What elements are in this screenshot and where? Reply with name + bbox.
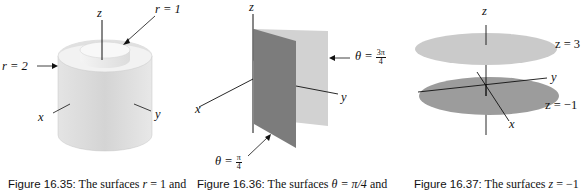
horizontal-planes-illustration (390, 0, 585, 194)
z-axis-label: z (482, 5, 487, 18)
caption-math: θ = π/4 (332, 177, 367, 191)
y-axis-label: y (341, 91, 347, 104)
caption-text: The surfaces (79, 177, 143, 191)
plane-1-label: θ = π4 (215, 154, 242, 171)
figure-16-37: z z = 3 y z = −1 x Figure 16.37: The sur… (390, 0, 585, 194)
figure-caption: Figure 16.35: The surfaces r = 1 and (8, 178, 186, 191)
z-axis-label: z (249, 1, 254, 14)
plane-1-fraction: π4 (236, 154, 242, 171)
caption-text-end: = 1 and (147, 177, 186, 191)
caption-text: The surfaces (485, 177, 549, 191)
upper-plane-label: z = 3 (555, 38, 580, 51)
figure-number: Figure 16.35: (8, 178, 76, 190)
fraction-denominator: 4 (236, 163, 242, 171)
lower-plane-label: z = −1 (545, 99, 577, 112)
caption-text-end: and (367, 177, 387, 191)
caption-text: The surfaces (268, 177, 332, 191)
figure-16-36: z x y θ = 3π4 θ = π4 Figure 16.36: The s… (195, 0, 395, 194)
y-axis-label: y (551, 71, 557, 84)
plane-2-label: θ = 3π4 (355, 49, 386, 66)
plane-1-lhs: θ = (215, 154, 233, 168)
x-axis-label: x (509, 118, 515, 131)
x-axis-label: x (195, 103, 201, 116)
figure-caption: Figure 16.37: The surfaces z = −1 (414, 178, 579, 191)
figure-number: Figure 16.37: (414, 178, 482, 190)
outer-surface-label: r = 2 (2, 60, 28, 73)
inner-surface-label: r = 1 (155, 3, 181, 16)
cylinders-illustration (0, 0, 195, 194)
x-axis-label: x (38, 111, 44, 124)
figure-16-35: z r = 1 r = 2 x y Figure 16.35: The surf… (0, 0, 195, 194)
plane-2-lhs: θ = (355, 49, 373, 63)
y-axis-label: y (155, 108, 161, 121)
figure-caption: Figure 16.36: The surfaces θ = π/4 and (197, 178, 387, 191)
fraction-denominator: 4 (376, 58, 386, 66)
plane-2-fraction: 3π4 (376, 49, 386, 66)
z-axis-label: z (97, 7, 102, 20)
caption-text-end: = −1 (553, 177, 579, 191)
figure-number: Figure 16.36: (197, 178, 265, 190)
